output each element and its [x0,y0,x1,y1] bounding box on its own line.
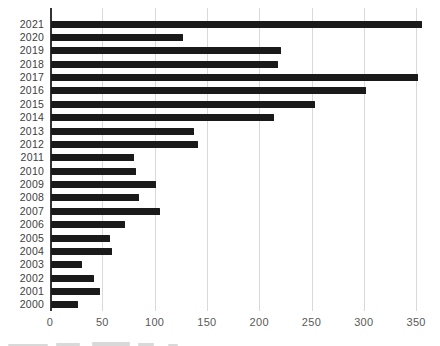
bar-2011 [51,154,134,161]
bar-2000 [51,301,78,308]
year-label-2020: 2020 [0,31,44,44]
bar-2004 [51,248,112,255]
bar-2006 [51,221,125,228]
bar-2009 [51,181,156,188]
year-label-2002: 2002 [0,272,44,285]
value-tick-200: 200 [250,316,269,328]
bar-2020 [51,34,183,41]
bar-chart: 2021202020192018201720162015201420132012… [0,0,440,346]
value-tick-50: 50 [96,316,109,328]
year-label-2004: 2004 [0,245,44,258]
bar-2010 [51,168,136,175]
bar-2003 [51,261,82,268]
year-label-2007: 2007 [0,205,44,218]
bar-2007 [51,208,160,215]
value-tick-0: 0 [47,316,53,328]
bar-2019 [51,47,281,54]
year-label-2000: 2000 [0,298,44,311]
gridline-300 [364,8,365,311]
year-label-2014: 2014 [0,111,44,124]
value-tick-150: 150 [197,316,216,328]
value-tick-250: 250 [302,316,321,328]
bar-2018 [51,61,278,68]
bar-2012 [51,141,198,148]
bar-2008 [51,194,139,201]
bar-2013 [51,128,194,135]
bar-2015 [51,101,315,108]
cropped-caption-fragment [8,340,198,346]
value-tick-350: 350 [406,316,425,328]
bar-2021 [51,21,422,28]
value-tick-100: 100 [145,316,164,328]
year-label-2018: 2018 [0,58,44,71]
plot-area [50,8,432,311]
year-label-2005: 2005 [0,232,44,245]
year-label-2008: 2008 [0,191,44,204]
year-label-2015: 2015 [0,98,44,111]
bar-2001 [51,288,100,295]
bar-2002 [51,275,94,282]
year-label-2006: 2006 [0,218,44,231]
bar-2014 [51,114,274,121]
year-label-2011: 2011 [0,151,44,164]
bar-2016 [51,87,366,94]
year-label-2017: 2017 [0,71,44,84]
gridline-350 [416,8,417,311]
year-label-2013: 2013 [0,125,44,138]
gridline-250 [312,8,313,311]
year-label-2019: 2019 [0,44,44,57]
year-label-2001: 2001 [0,285,44,298]
year-label-2021: 2021 [0,18,44,31]
bar-2017 [51,74,418,81]
value-tick-300: 300 [354,316,373,328]
year-label-2016: 2016 [0,84,44,97]
year-label-2010: 2010 [0,165,44,178]
year-label-2012: 2012 [0,138,44,151]
year-label-2003: 2003 [0,258,44,271]
year-label-2009: 2009 [0,178,44,191]
bar-2005 [51,235,110,242]
